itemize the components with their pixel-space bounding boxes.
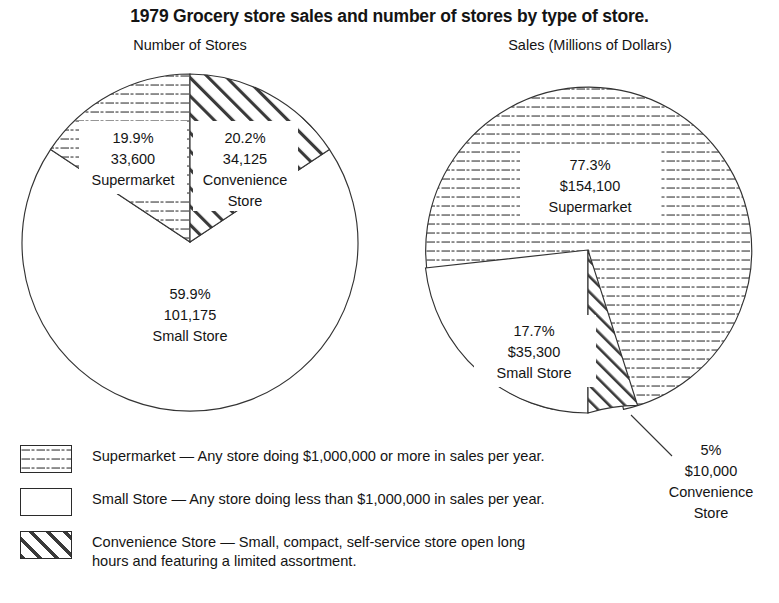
left-supermarket-pct: 19.9% bbox=[112, 130, 153, 146]
right-small-store-value: $35,300 bbox=[508, 344, 560, 360]
left-convenience-pct: 20.2% bbox=[224, 130, 265, 146]
left-convenience-value: 34,125 bbox=[223, 151, 267, 167]
left-small-store-name: Small Store bbox=[153, 328, 228, 344]
left-supermarket-name: Supermarket bbox=[91, 172, 174, 188]
right-supermarket-value: $154,100 bbox=[560, 178, 620, 194]
legend-text-supermarket: Supermarket — Any store doing $1,000,000… bbox=[92, 444, 545, 466]
convenience-store-swatch bbox=[20, 531, 72, 559]
right-supermarket-name: Supermarket bbox=[548, 199, 631, 215]
left-pie-chart: 19.9% 33,600 Supermarket 20.2% 34,125 Co… bbox=[22, 74, 358, 411]
right-small-store-name: Small Store bbox=[497, 365, 572, 381]
supermarket-swatch-pattern bbox=[21, 446, 71, 472]
left-small-store-value: 101,175 bbox=[164, 307, 216, 323]
legend-row-small-store[interactable]: Small Store — Any store doing less than … bbox=[20, 487, 760, 516]
left-convenience-name2: Store bbox=[228, 193, 263, 209]
right-supermarket-pct: 77.3% bbox=[569, 157, 610, 173]
figure: 1979 Grocery store sales and number of s… bbox=[0, 0, 779, 603]
legend-row-supermarket[interactable]: Supermarket — Any store doing $1,000,000… bbox=[20, 444, 760, 473]
legend-row-convenience-store[interactable]: Convenience Store — Small, compact, self… bbox=[20, 530, 760, 570]
legend-text-small-store: Small Store — Any store doing less than … bbox=[92, 487, 545, 509]
left-small-store-pct: 59.9% bbox=[169, 286, 210, 302]
left-convenience-name: Convenience bbox=[203, 172, 288, 188]
right-small-store-pct: 17.7% bbox=[513, 323, 554, 339]
left-supermarket-value: 33,600 bbox=[111, 151, 155, 167]
legend: Supermarket — Any store doing $1,000,000… bbox=[20, 444, 760, 584]
legend-text-convenience-store: Convenience Store — Small, compact, self… bbox=[92, 530, 525, 570]
supermarket-swatch bbox=[20, 445, 72, 473]
small-store-swatch bbox=[20, 488, 72, 516]
